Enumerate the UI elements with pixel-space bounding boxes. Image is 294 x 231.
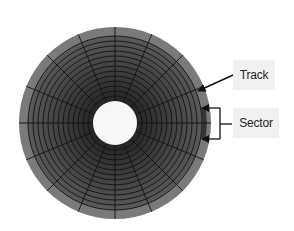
sector-label: Sector bbox=[233, 108, 279, 138]
track-label: Track bbox=[233, 60, 275, 90]
spindle-hole bbox=[93, 101, 137, 145]
track-arrow bbox=[198, 75, 233, 91]
